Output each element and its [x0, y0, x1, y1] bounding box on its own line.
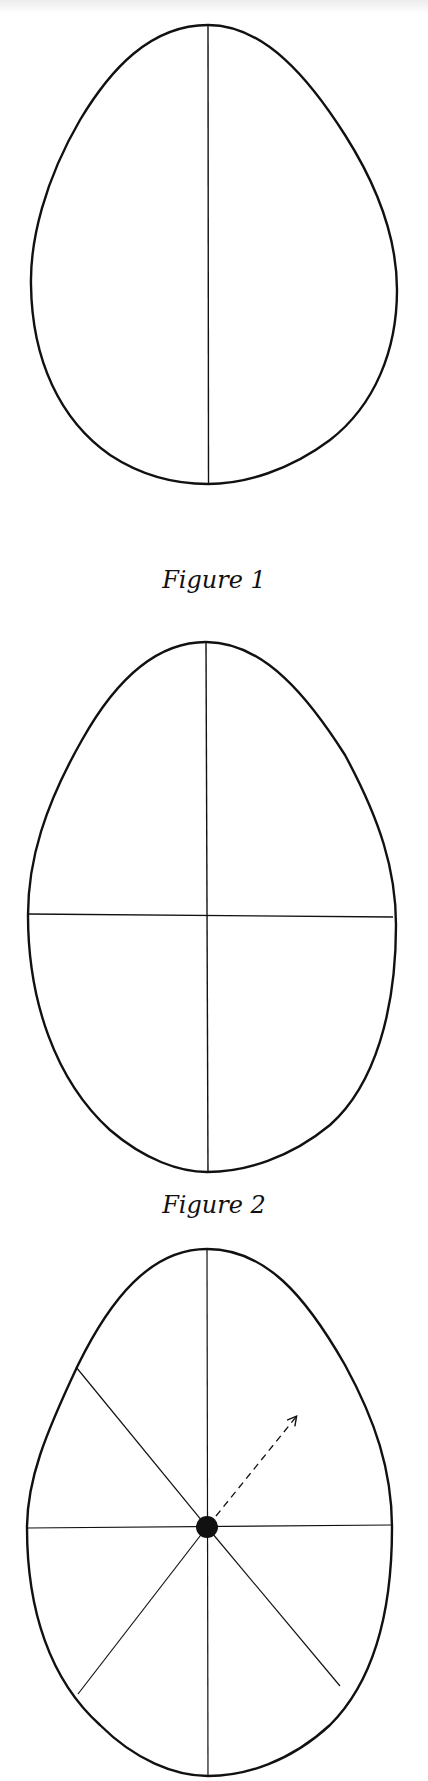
- figure-2-caption: Figure 2: [0, 1191, 428, 1219]
- diagonal-line-lower-left: [78, 1527, 207, 1694]
- egg-outline: [27, 1249, 392, 1776]
- egg-outline: [28, 642, 396, 1172]
- egg-diagrams: [0, 0, 428, 1781]
- figure-1-caption: Figure 1: [0, 566, 428, 594]
- vertical-axis-line: [206, 642, 208, 1172]
- vertical-axis-line: [207, 1249, 208, 1776]
- diagonal-line-upper-left: [76, 1367, 207, 1527]
- center-dot: [196, 1516, 218, 1538]
- figure-2-egg: [28, 642, 396, 1172]
- figure-3-egg: [27, 1249, 392, 1776]
- horizontal-axis-line: [28, 914, 393, 917]
- egg-outline: [31, 25, 397, 484]
- diagonal-line-lower-right: [207, 1527, 340, 1686]
- vertical-axis-line: [208, 25, 209, 483]
- figure-1-egg: [31, 25, 397, 484]
- dashed-arrow: [216, 1417, 296, 1516]
